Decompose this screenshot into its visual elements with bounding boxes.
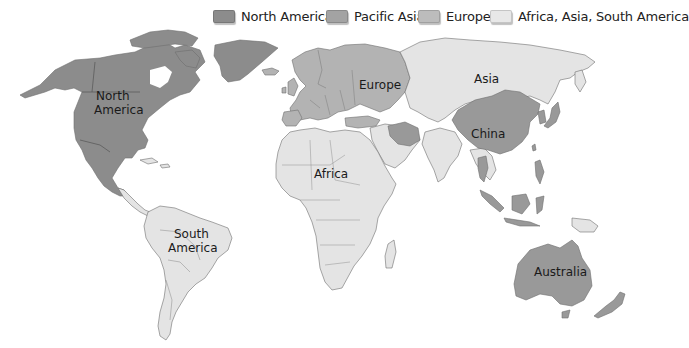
region-south-america xyxy=(118,188,232,340)
thailand xyxy=(478,156,488,182)
label-south-america-line2: America xyxy=(168,241,218,255)
borneo xyxy=(512,194,530,214)
central-america xyxy=(118,188,150,216)
new-zealand xyxy=(594,292,625,318)
sumatra xyxy=(480,190,504,212)
british-isles xyxy=(288,78,298,96)
region-africa xyxy=(276,128,396,290)
greenland xyxy=(214,40,278,82)
label-europe: Europe xyxy=(359,78,401,92)
label-africa: Africa xyxy=(314,167,348,181)
north-america-mainland xyxy=(20,42,205,196)
africa-mainland xyxy=(276,128,396,290)
label-australia: Australia xyxy=(534,265,587,279)
label-north-america-line1: North xyxy=(96,89,130,103)
new-guinea xyxy=(572,218,598,232)
japan xyxy=(544,102,560,128)
iberia xyxy=(282,110,302,126)
madagascar xyxy=(385,240,396,268)
label-south-america-line1: South xyxy=(174,227,209,241)
region-north-america xyxy=(20,30,279,196)
sulawesi xyxy=(536,196,544,214)
korea xyxy=(538,110,546,124)
philippines xyxy=(535,160,544,184)
arctic-islands xyxy=(130,30,198,48)
java xyxy=(504,218,540,226)
india xyxy=(422,128,462,182)
turkey xyxy=(345,116,380,128)
label-asia: Asia xyxy=(474,72,499,86)
iceland xyxy=(262,68,279,75)
label-china: China xyxy=(471,127,505,141)
label-north-america-line2: America xyxy=(94,103,144,117)
region-pacific-asia xyxy=(452,90,625,318)
